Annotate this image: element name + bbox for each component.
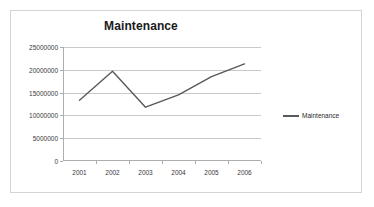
series-line-maintenance	[63, 47, 261, 161]
x-tick-label: 2006	[237, 169, 251, 176]
chart-container: Maintenance 0500000010000000150000002000…	[10, 10, 362, 193]
y-tick-mark	[60, 161, 63, 162]
x-tick-label: 2004	[171, 169, 185, 176]
x-tick-mark	[261, 161, 262, 164]
x-tick-label: 2001	[72, 169, 86, 176]
x-tick-mark	[96, 161, 97, 164]
x-tick-label: 2002	[105, 169, 119, 176]
legend-line-swatch	[283, 115, 299, 117]
y-tick-label: 0	[54, 158, 58, 165]
legend-item-maintenance: Maintenance	[302, 112, 339, 119]
x-tick-label: 2003	[138, 169, 152, 176]
plot-area: 0500000010000000150000002000000025000000…	[63, 47, 261, 161]
y-tick-label: 15000000	[29, 89, 58, 96]
y-tick-label: 20000000	[29, 66, 58, 73]
y-tick-label: 5000000	[33, 135, 58, 142]
y-tick-label: 10000000	[29, 112, 58, 119]
plot-wrapper: 0500000010000000150000002000000025000000…	[11, 11, 363, 194]
chart-legend: Maintenance	[283, 112, 339, 119]
x-tick-mark	[162, 161, 163, 164]
y-tick-label: 25000000	[29, 44, 58, 51]
x-tick-mark	[129, 161, 130, 164]
x-tick-label: 2005	[204, 169, 218, 176]
x-tick-mark	[228, 161, 229, 164]
x-tick-mark	[195, 161, 196, 164]
